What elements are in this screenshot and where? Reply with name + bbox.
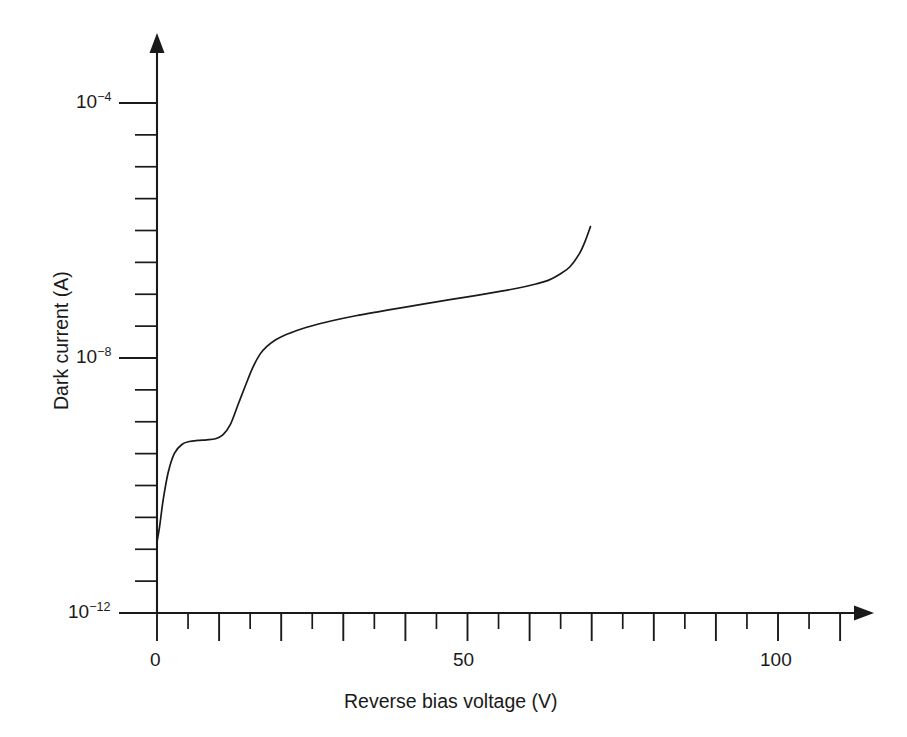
y-axis [119, 33, 165, 613]
plot-canvas [0, 0, 907, 737]
y-axis-title: Dark current (A) [52, 271, 72, 410]
y-tick-label-1e-8: 10−8 [76, 347, 111, 366]
x-axis-arrow-icon [854, 606, 874, 621]
y-tick-exponent: −12 [89, 600, 110, 614]
x-axis-title: Reverse bias voltage (V) [344, 692, 558, 712]
x-tick-label-0: 0 [150, 650, 161, 669]
chart-figure: 10−4 10−8 10−12 0 50 100 Dark current (A… [0, 0, 907, 737]
y-tick-exponent: −4 [97, 90, 111, 104]
y-tick-mantissa: 10 [68, 601, 89, 622]
y-tick-label-1e-12: 10−12 [68, 602, 110, 621]
x-tick-label-100: 100 [760, 650, 792, 669]
y-tick-marks [119, 103, 157, 613]
y-tick-mantissa: 10 [76, 346, 97, 367]
x-tick-label-50: 50 [453, 650, 474, 669]
y-tick-exponent: −8 [97, 345, 111, 359]
x-axis [119, 606, 874, 642]
dark-current-curve [157, 227, 590, 542]
y-tick-mantissa: 10 [76, 91, 97, 112]
x-tick-marks [157, 613, 840, 641]
y-tick-label-1e-4: 10−4 [76, 92, 111, 111]
y-axis-arrow-icon [150, 33, 165, 53]
